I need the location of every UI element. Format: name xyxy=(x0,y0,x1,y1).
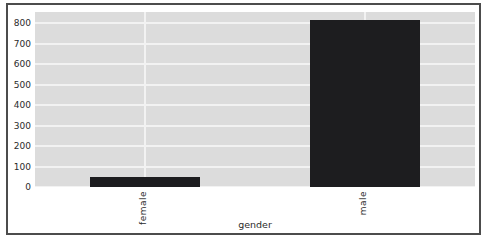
y-tick-label: 0 xyxy=(0,182,31,192)
y-tick-label: 800 xyxy=(0,18,31,28)
y-tick-label: 100 xyxy=(0,162,31,172)
x-tick-label: male xyxy=(359,191,368,215)
bar-male xyxy=(310,20,420,187)
y-tick-label: 500 xyxy=(0,80,31,90)
y-tick-label: 200 xyxy=(0,141,31,151)
x-axis-label: gender xyxy=(35,219,475,230)
bar-female xyxy=(90,177,200,187)
y-tick-label: 300 xyxy=(0,121,31,131)
figure: 0100200300400500600700800 femalemale gen… xyxy=(0,0,488,244)
bars-layer xyxy=(35,12,475,187)
y-tick-label: 600 xyxy=(0,59,31,69)
y-tick-label: 400 xyxy=(0,100,31,110)
plot-area xyxy=(35,12,475,187)
y-tick-label: 700 xyxy=(0,39,31,49)
